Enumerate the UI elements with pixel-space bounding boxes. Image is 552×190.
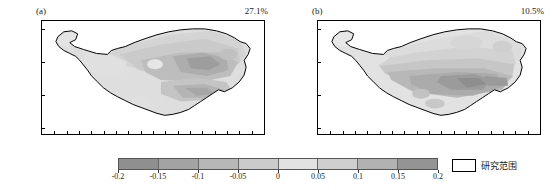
panel-b-xtick-minor (478, 131, 479, 134)
panel-b-xtick-minor (528, 131, 529, 134)
panel-b-ytick-30-inner (318, 95, 321, 96)
panel-a-xtick-minor (190, 131, 191, 134)
panel-b-percent: 10.5% (521, 6, 544, 16)
panel-b-xtick-minor (466, 131, 467, 134)
colorbar-tick-label: -0.05 (230, 172, 247, 181)
panel-b-xtick-minor (503, 131, 504, 134)
panel-a-xtick-72-inner (54, 131, 55, 134)
colorbar-tick-label: -0.2 (112, 172, 125, 181)
panel-b-xtick-minor (491, 131, 492, 134)
panel-b-label: (b) (312, 6, 323, 16)
study-area-swatch-icon (452, 159, 476, 172)
colorbar-band-7 (398, 159, 437, 169)
panel-a-plot-area: 40°N 35° 30° 25° 72° 82° 92° 102°E (41, 20, 265, 135)
panel-a-xtick-82-inner (116, 131, 117, 134)
panel-b-xtick-82-inner (392, 131, 393, 134)
panel-b-ytick-25-inner (318, 128, 321, 129)
colorbar-band-3 (239, 159, 279, 169)
panel-a-xtick-minor (227, 131, 228, 134)
colorbar: -0.2-0.15-0.1-0.0500.050.10.150.2 (118, 158, 438, 170)
panel-a-xtick-minor (67, 131, 68, 134)
colorbar-tick-label: -0.1 (192, 172, 205, 181)
panel-a-xtick-minor (91, 131, 92, 134)
panel-b-xtick-102 (515, 134, 516, 135)
panel-b-xtick-92 (454, 134, 455, 135)
panel-a-xtick-minor (215, 131, 216, 134)
panel-a-xtick-minor (202, 131, 203, 134)
panel-a-xtick-72 (54, 134, 55, 135)
panel-a-xtick-minor (79, 131, 80, 134)
colorbar-band-1 (159, 159, 199, 169)
panel-b-xtick-minor (429, 131, 430, 134)
panel-a: (a) 27.1% (0, 0, 276, 150)
panel-a-xtick-minor (141, 131, 142, 134)
figure-root: (a) 27.1% (0, 0, 552, 190)
panel-b-xtick-82 (392, 134, 393, 135)
panel-a-map (42, 21, 264, 134)
colorbar-tick-label: 0.05 (311, 172, 325, 181)
panel-a-percent: 27.1% (245, 6, 268, 16)
panel-b-xtick-minor (367, 131, 368, 134)
panel-a-ytick-25-inner (42, 128, 45, 129)
panel-a-xtick-92 (178, 134, 179, 135)
panel-b-shading (318, 21, 540, 134)
panel-a-xtick-82 (116, 134, 117, 135)
panel-b-xtick-minor (404, 131, 405, 134)
panel-a-xtick-minor (128, 131, 129, 134)
panel-a-xtick-minor (252, 131, 253, 134)
panel-a-xtick-102 (239, 134, 240, 135)
panel-a-xtick-minor (165, 131, 166, 134)
legend-label: 研究范围 (481, 159, 517, 172)
colorbar-tick-label: -0.15 (150, 172, 167, 181)
colorbar-tick-label: 0.2 (433, 172, 443, 181)
panel-a-label: (a) (36, 6, 46, 16)
panel-a-xtick-92-inner (178, 131, 179, 134)
panel-b-plot-area: 40°N 35° 30° 25° 72° 82° 92° 102°E (317, 20, 541, 135)
panel-b: (b) 10.5% (276, 0, 552, 150)
panel-a-xtick-102-inner (239, 131, 240, 134)
panel-b-xtick-minor (343, 131, 344, 134)
colorbar-tick-label: 0 (276, 172, 280, 181)
panel-b-xtick-minor (417, 131, 418, 134)
panel-b-ytick-40-inner (318, 29, 321, 30)
panel-a-ytick-35-inner (42, 62, 45, 63)
panel-b-xtick-minor (441, 131, 442, 134)
panel-b-xtick-72 (330, 134, 331, 135)
panel-b-xtick-92-inner (454, 131, 455, 134)
colorbar-band-6 (358, 159, 398, 169)
colorbar-band-4 (279, 159, 319, 169)
colorbar-band-0 (119, 159, 159, 169)
colorbar-tick-label: 0.1 (353, 172, 363, 181)
colorbar-band-2 (199, 159, 239, 169)
panel-b-xtick-minor (355, 131, 356, 134)
panel-b-ytick-35-inner (318, 62, 321, 63)
panel-b-xtick-minor (380, 131, 381, 134)
panel-a-xtick-minor (104, 131, 105, 134)
panel-a-ytick-30-inner (42, 95, 45, 96)
legend: 研究范围 (452, 159, 517, 172)
panel-b-xtick-72-inner (330, 131, 331, 134)
panel-a-xtick-minor (153, 131, 154, 134)
panel-b-xtick-102-inner (515, 131, 516, 134)
colorbar-band-5 (318, 159, 358, 169)
panel-a-shading (42, 21, 264, 134)
colorbar-bands (118, 158, 438, 170)
colorbar-tick-label: 0.15 (391, 172, 405, 181)
panel-b-map (318, 21, 540, 134)
panel-a-ytick-40-inner (42, 29, 45, 30)
